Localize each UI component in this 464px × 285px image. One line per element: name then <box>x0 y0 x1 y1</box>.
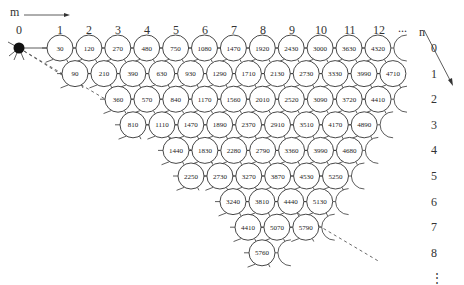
node-value: 1830 <box>198 147 213 155</box>
node-value: 3090 <box>313 96 328 104</box>
node-value: 840 <box>171 96 182 104</box>
node-value: 1470 <box>226 45 241 53</box>
node-value: 2130 <box>270 70 285 78</box>
lattice-node: 5250 <box>323 163 349 189</box>
node-value: 5250 <box>329 173 344 181</box>
lattice-node: 2130 <box>264 61 290 87</box>
m-axis-label: m <box>10 6 19 18</box>
lattice-node: 2370 <box>236 112 262 138</box>
node-value: 4890 <box>357 121 372 129</box>
lattice-node: 1830 <box>192 137 218 163</box>
lattice-node: 1560 <box>221 86 247 112</box>
node-value: 2430 <box>284 45 299 53</box>
lattice-node: 750 <box>163 35 189 61</box>
node-value: 2730 <box>299 70 314 78</box>
column-label: 8 <box>260 24 266 36</box>
node-value: 1170 <box>198 96 212 104</box>
node-value: 1110 <box>155 121 169 129</box>
node-value: 270 <box>113 45 124 53</box>
row-label: 6 <box>431 196 437 208</box>
column-label: 5 <box>173 24 179 36</box>
lattice-node: 30 <box>47 35 73 61</box>
column-label: 11 <box>344 24 356 36</box>
n-arrow-icon <box>424 30 453 86</box>
node-value: 2250 <box>184 173 199 181</box>
node-value: 1440 <box>169 147 184 155</box>
node-value: 2010 <box>256 96 271 104</box>
column-label: ... <box>398 22 407 34</box>
lattice-node: 4320 <box>365 35 391 61</box>
node-value: 5790 <box>299 224 314 232</box>
lattice-node: 5070 <box>264 214 290 240</box>
lattice-node: 810 <box>120 112 146 138</box>
lattice-node: 4680 <box>336 137 362 163</box>
node-value: 5760 <box>255 249 270 257</box>
lattice-node: 2520 <box>278 86 304 112</box>
m-arrow-icon <box>24 13 70 17</box>
node-value: 4440 <box>284 198 299 206</box>
column-label: 6 <box>202 24 208 36</box>
lattice-node: 3630 <box>336 35 362 61</box>
lattice-node: 1440 <box>163 137 189 163</box>
node-value: 1710 <box>241 70 256 78</box>
node-value: 2790 <box>256 147 271 155</box>
node-value: 3270 <box>242 173 257 181</box>
lattice-node: 3240 <box>220 189 246 215</box>
lattice-node: 630 <box>149 61 175 87</box>
node-value: 2730 <box>213 173 228 181</box>
lattice-node: 1290 <box>207 61 233 87</box>
row-label: 1 <box>431 68 437 80</box>
column-label: 4 <box>144 24 150 36</box>
node-value: 1920 <box>255 45 270 53</box>
node-value: 930 <box>185 70 196 78</box>
lattice-node: 3330 <box>322 61 348 87</box>
node-value: 210 <box>99 70 110 78</box>
lattice-node: 3990 <box>308 137 334 163</box>
lattice-node: 2790 <box>250 137 276 163</box>
lattice-node: 4410 <box>365 86 391 112</box>
lattice-node: 3270 <box>236 163 262 189</box>
node-value: 570 <box>142 96 153 104</box>
lattice-node: 2910 <box>265 112 291 138</box>
column-label: 2 <box>86 24 92 36</box>
lattice-node: 5130 <box>307 189 333 215</box>
lattice-node: 4410 <box>235 214 261 240</box>
lattice-nodes: 3012027048075010801470192024303000363043… <box>47 35 406 266</box>
lattice-node: 2730 <box>293 61 319 87</box>
lattice-node: 360 <box>105 86 131 112</box>
column-label: 9 <box>289 24 295 36</box>
row-label: 3 <box>431 119 437 131</box>
node-value: 390 <box>128 70 139 78</box>
lattice-node: 3990 <box>351 61 377 87</box>
node-value: 1080 <box>198 45 213 53</box>
node-value: 630 <box>156 70 167 78</box>
node-value: 3990 <box>314 147 329 155</box>
node-value: 3810 <box>255 198 270 206</box>
n-axis-label: n <box>419 26 425 38</box>
column-label: 0 <box>16 24 22 36</box>
row-label: 8 <box>431 247 437 259</box>
node-value: 4680 <box>342 147 357 155</box>
lattice-node: 270 <box>105 35 131 61</box>
row-label: 0 <box>431 42 437 54</box>
column-label: 10 <box>315 24 327 36</box>
lattice-node: 3810 <box>249 189 275 215</box>
node-value: 2910 <box>271 121 286 129</box>
lattice-node: 1080 <box>192 35 218 61</box>
node-value: 3990 <box>357 70 372 78</box>
node-value: 3240 <box>226 198 241 206</box>
node-value: 120 <box>84 45 95 53</box>
row-label: ⋮ <box>431 272 443 284</box>
node-value: 3360 <box>285 147 300 155</box>
lattice-node: 1110 <box>149 112 175 138</box>
lattice-node: 210 <box>91 61 117 87</box>
lattice-node: 3360 <box>279 137 305 163</box>
lattice-node: 120 <box>76 35 102 61</box>
node-value: 480 <box>141 45 152 53</box>
lattice-node: 840 <box>163 86 189 112</box>
lattice-node: 3510 <box>293 112 319 138</box>
lattice-node: 3000 <box>307 35 333 61</box>
node-value: 30 <box>57 45 65 53</box>
node-value: 2370 <box>242 121 257 129</box>
